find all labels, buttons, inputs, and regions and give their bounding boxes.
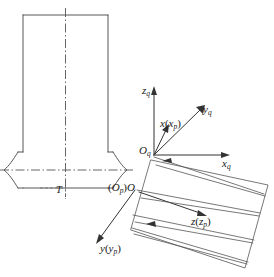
axis-label-yq-sub: q — [208, 108, 212, 117]
patch-path-arrow-1 — [162, 158, 172, 163]
axis-label-zp-paren-close: ) — [207, 215, 211, 227]
axis-line-yp — [100, 190, 135, 238]
axis-label-zp: z(zp) — [191, 216, 211, 229]
axis-label-xq-sub: q — [227, 162, 231, 171]
axis-arrow-zq — [151, 86, 157, 95]
patch-path-line-2a — [137, 190, 260, 213]
origin-label-oq: Oq — [139, 145, 151, 158]
axis-label-yp: y(yp) — [100, 243, 121, 256]
origin-label-op-inner: O — [112, 181, 120, 193]
axis-line-xp — [154, 130, 166, 155]
axis-label-xp-paren-close: ) — [177, 117, 181, 129]
axis-label-zq: zq — [142, 85, 150, 98]
technical-diagram-figure: T zq yq xq Oq x(xp) (Op)O z(zp) y(yp) — [0, 0, 274, 277]
origin-label-op-main: O — [127, 181, 135, 193]
axis-label-zq-sub: q — [146, 89, 150, 98]
patch-path-line-4a — [132, 228, 248, 262]
axis-label-yp-paren-close: ) — [117, 242, 121, 254]
origin-label-op: (Op)O — [108, 182, 135, 195]
axis-label-yq: yq — [203, 104, 212, 117]
origin-label-oq-sub: q — [147, 149, 151, 158]
axis-label-xp: x(xp) — [160, 118, 181, 131]
diagram-canvas — [0, 0, 274, 277]
origin-label-oq-main: O — [139, 144, 147, 156]
patch-path-arrow-3 — [146, 221, 156, 227]
patch-path-line-4b — [134, 234, 247, 264]
dimension-label-t-text: T — [56, 184, 62, 195]
dimension-label-t: T — [56, 185, 62, 196]
axis-label-xq: xq — [222, 158, 231, 171]
